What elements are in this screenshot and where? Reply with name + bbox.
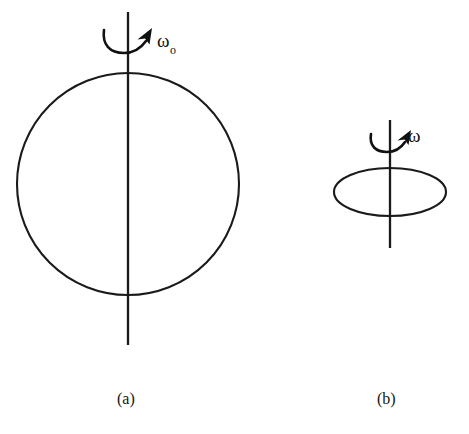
panel-b-caption: (b) xyxy=(377,391,396,407)
panel-a-caption: (a) xyxy=(117,391,135,407)
panel-b-rotation-arrow-arc xyxy=(371,134,405,152)
panel-b-omega-symbol: ω xyxy=(408,125,421,146)
panel-a-rotation-arrow-arc xyxy=(104,30,146,53)
figure-canvas xyxy=(0,0,469,434)
panel-a-angular-velocity-label: ωo xyxy=(157,31,176,53)
panel-b-angular-velocity-label: ω xyxy=(408,126,421,148)
physics-figure: ωo ω (a) (b) xyxy=(0,0,469,434)
panel-b-group xyxy=(334,120,446,248)
panel-a-group xyxy=(17,12,239,345)
panel-a-omega-symbol: ω xyxy=(157,30,170,51)
panel-a-omega-subscript: o xyxy=(170,43,176,57)
